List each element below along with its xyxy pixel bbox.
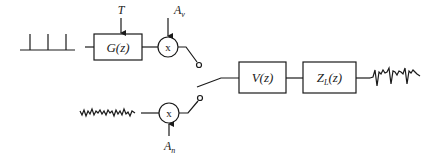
connector-line [179,101,198,113]
connector-line [178,47,197,62]
unvoiced-multiplier: x [159,103,179,123]
voiced-gain-label: Av [173,3,185,19]
unvoiced-gain-label: An [163,139,175,155]
speech-model-diagram: G(z) T x Av x An V(z) ZL(z) [0,0,438,161]
speech-waveform-icon [370,68,420,86]
radiation-block: ZL(z) [303,62,356,93]
multiply-icon: x [165,41,171,53]
multiply-icon: x [166,107,172,119]
vocal-tract-label: V(z) [252,70,274,85]
radiation-label: ZL(z) [317,70,342,87]
vocal-tract-block: V(z) [239,62,286,93]
impulse-train-icon [20,34,75,50]
glottal-filter-block: G(z) [94,34,142,60]
switch-icon [197,78,239,87]
glottal-filter-label: G(z) [106,40,129,55]
voiced-switch-contact [197,63,202,68]
voiced-multiplier: x [158,37,178,57]
pitch-period-label: T [118,3,126,17]
white-noise-icon [80,109,135,116]
unvoiced-switch-contact [198,96,203,101]
